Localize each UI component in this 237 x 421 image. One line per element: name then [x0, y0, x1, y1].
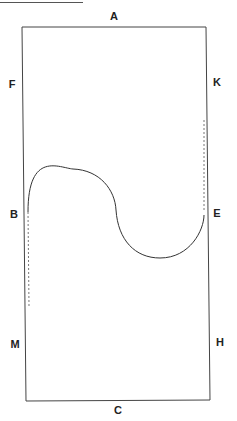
- serpentine-path: [28, 166, 204, 258]
- marker-a: A: [110, 10, 118, 22]
- arena-diagram: [0, 0, 237, 421]
- marker-c: C: [114, 404, 122, 416]
- marker-h: H: [216, 336, 224, 348]
- marker-f: F: [9, 78, 16, 90]
- marker-m: M: [10, 338, 19, 350]
- marker-e: E: [213, 207, 220, 219]
- marker-k: K: [213, 76, 221, 88]
- dashed-track-left: [28, 212, 29, 306]
- marker-b: B: [10, 208, 18, 220]
